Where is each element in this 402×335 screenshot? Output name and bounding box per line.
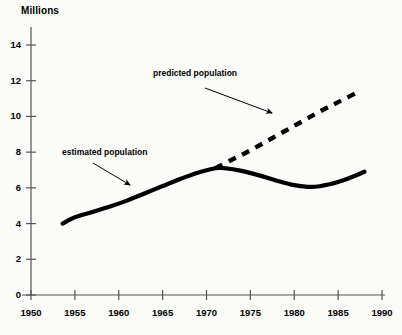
- y-axis-tick-label: 2: [0, 253, 21, 264]
- annotation-arrow: [205, 88, 272, 113]
- y-axis-tick-label: 8: [0, 146, 21, 157]
- annotation-arrow: [93, 163, 130, 185]
- y-axis-tick-label: 10: [0, 110, 21, 121]
- x-axis-tick-label: 1955: [51, 307, 99, 318]
- population-line-chart: Millions 02468101214 1950195519601965197…: [0, 0, 402, 335]
- x-axis-tick-label: 1970: [183, 307, 231, 318]
- y-axis-tick-label: 6: [0, 182, 21, 193]
- x-axis-tick-label: 1985: [314, 307, 362, 318]
- annotation-label: predicted population: [153, 68, 237, 78]
- x-axis-tick-label: 1950: [7, 307, 55, 318]
- x-axis-tick-label: 1990: [358, 307, 402, 318]
- x-axis-tick-label: 1980: [270, 307, 318, 318]
- x-axis-tick-label: 1965: [139, 307, 187, 318]
- y-axis-tick-label: 12: [0, 75, 21, 86]
- plot-area: [0, 0, 402, 335]
- series-line-estimated-population: [63, 168, 365, 224]
- x-axis-tick-label: 1960: [95, 307, 143, 318]
- y-axis-tick-label: 0: [0, 289, 21, 300]
- y-axis-tick-label: 4: [0, 218, 21, 229]
- x-axis-tick-label: 1975: [226, 307, 274, 318]
- annotation-label: estimated population: [62, 147, 147, 157]
- y-axis-tick-label: 14: [0, 39, 21, 50]
- data-series-group: [63, 93, 365, 223]
- series-line-predicted-population: [215, 93, 355, 168]
